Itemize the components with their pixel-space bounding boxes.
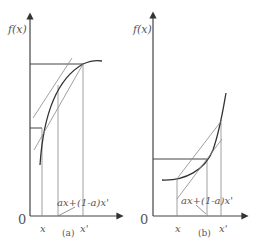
origin-label: 0 xyxy=(18,212,26,227)
y-axis-label: f(x) xyxy=(132,23,152,36)
combo-label: ax+(1-a)x' xyxy=(181,195,233,206)
chord xyxy=(34,64,83,150)
figure: f(x) 0 x x' ax+(1-a)x' (a) f(x) 0 x x' a… xyxy=(0,0,257,248)
chord xyxy=(176,120,222,180)
combo-label: ax+(1-a)x' xyxy=(57,197,109,208)
tangent xyxy=(33,58,72,118)
panel-b: f(x) 0 x x' ax+(1-a)x' (b) xyxy=(132,15,245,238)
x-prime-label: x' xyxy=(219,223,227,234)
origin-label: 0 xyxy=(140,212,148,227)
tangent xyxy=(177,139,222,199)
x-label: x xyxy=(40,223,46,234)
convex-curve xyxy=(162,93,226,180)
caption: (b) xyxy=(198,228,211,238)
concave-curve xyxy=(40,61,102,165)
caption: (a) xyxy=(62,228,74,238)
panel-a: f(x) 0 x x' ax+(1-a)x' (a) xyxy=(7,16,120,238)
x-label: x xyxy=(175,223,181,234)
x-prime-label: x' xyxy=(80,223,88,234)
y-axis-label: f(x) xyxy=(7,23,27,36)
